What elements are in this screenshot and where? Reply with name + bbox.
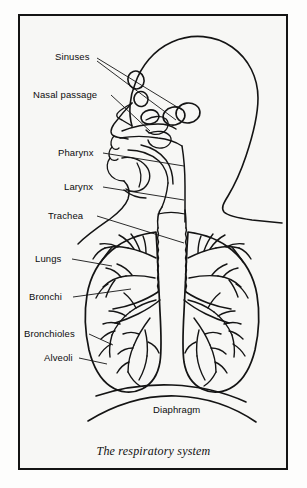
lung-right-outline xyxy=(183,232,259,392)
leader-bronchioles xyxy=(89,334,113,345)
label-bronchioles: Bronchioles xyxy=(24,329,75,339)
leader-sinuses-b xyxy=(97,61,176,120)
larynx-left xyxy=(158,207,162,228)
tongue xyxy=(122,157,150,191)
figure-caption: The respiratory system xyxy=(0,444,307,459)
sinus-sphenoid xyxy=(161,105,186,127)
pharynx-anterior-wall xyxy=(162,183,168,207)
lung-left-outline xyxy=(85,232,161,392)
leader-bronchi xyxy=(73,289,131,297)
sinus-posterior xyxy=(175,101,202,124)
label-sinuses: Sinuses xyxy=(55,52,90,62)
epiglottis xyxy=(137,163,141,187)
figure-page: Sinuses Nasal passage Pharynx Larynx Tra… xyxy=(0,0,307,488)
diaphragm-upper xyxy=(96,385,246,402)
label-nasal-passage: Nasal passage xyxy=(33,90,97,100)
label-trachea: Trachea xyxy=(48,211,83,221)
nose-profile xyxy=(111,103,132,139)
label-bronchi: Bronchi xyxy=(29,292,62,302)
leader-trachea xyxy=(97,216,184,243)
bronchial-tree-right xyxy=(185,234,251,386)
label-larynx: Larynx xyxy=(64,182,93,192)
sinus-ethmoid xyxy=(132,90,149,108)
lower-lip-chin xyxy=(107,158,124,181)
label-alveoli: Alveoli xyxy=(44,353,73,363)
larynx-right xyxy=(185,210,186,228)
larynx-box xyxy=(158,213,185,215)
label-lungs: Lungs xyxy=(35,254,61,264)
label-pharynx: Pharynx xyxy=(58,148,94,158)
leader-lungs xyxy=(72,259,112,266)
leader-sinuses-a xyxy=(97,58,182,110)
label-diaphragm: Diaphragm xyxy=(153,405,200,415)
